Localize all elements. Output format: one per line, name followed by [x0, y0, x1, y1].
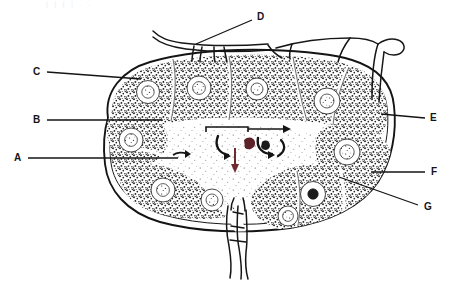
label-a[interactable]: A: [14, 153, 21, 163]
label-f[interactable]: F: [431, 167, 437, 177]
lymph-node-body: [104, 31, 404, 279]
leader-line-d: [196, 20, 252, 44]
figure-canvas: | | | | . .: [0, 0, 469, 281]
label-d[interactable]: D: [257, 12, 264, 22]
lymph-node-diagram: [0, 0, 469, 281]
label-b[interactable]: B: [33, 115, 40, 125]
label-e[interactable]: E: [430, 113, 437, 123]
label-g[interactable]: G: [424, 202, 432, 212]
label-c[interactable]: C: [33, 67, 40, 77]
